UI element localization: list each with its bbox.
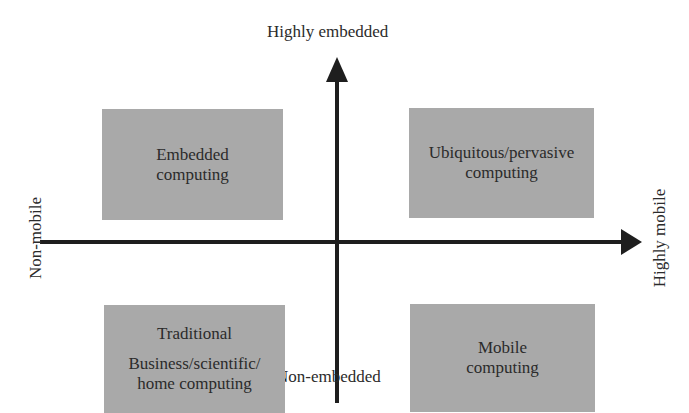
arrow-right-icon — [621, 229, 642, 255]
arrow-up-icon — [326, 57, 348, 82]
quadrant-text: home computing — [137, 374, 252, 394]
quadrant-traditional-computing: Traditional Business/scientific/ home co… — [104, 305, 285, 413]
axis-label-non-mobile: Non-mobile — [26, 197, 46, 279]
quadrant-text: computing — [466, 358, 539, 378]
quadrant-text: computing — [465, 163, 538, 183]
quadrant-text: Ubiquitous/pervasive — [429, 143, 574, 163]
quadrant-title: Traditional — [157, 324, 232, 344]
quadrant-text: Business/scientific/ — [128, 354, 260, 374]
quadrant-text: Mobile — [478, 338, 527, 358]
axis-label-non-embedded: Non-embedded — [276, 367, 381, 387]
quadrant-text: computing — [156, 165, 229, 185]
quadrant-text: Embedded — [156, 145, 229, 165]
axis-label-highly-mobile: Highly mobile — [650, 189, 670, 288]
quadrant-ubiquitous-computing: Ubiquitous/pervasive computing — [409, 108, 594, 218]
quadrant-embedded-computing: Embedded computing — [102, 109, 283, 220]
axis-label-highly-embedded: Highly embedded — [267, 22, 388, 42]
quadrant-mobile-computing: Mobile computing — [410, 304, 595, 412]
